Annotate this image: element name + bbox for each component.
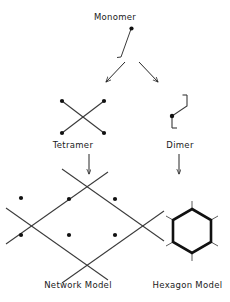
hexagon-model-glyph	[166, 201, 218, 261]
tetramer-arm-dot	[102, 99, 106, 103]
monomer-glyph	[117, 26, 134, 57]
model-arrows	[89, 154, 179, 174]
hexagon-model-label: Hexagon Model	[145, 281, 230, 290]
network-node-dot	[19, 233, 23, 237]
tetramer-glyph	[60, 99, 106, 135]
dimer-node-dot	[170, 114, 174, 118]
network-model-dots	[19, 196, 117, 237]
network-node-dot	[113, 197, 117, 201]
diagram-canvas	[0, 0, 230, 302]
network-node-dot	[19, 196, 23, 200]
network-node-dot	[67, 197, 71, 201]
tetramer-arm-dot	[60, 131, 64, 135]
hexagon-ring	[173, 209, 211, 253]
branch-arrows	[106, 62, 158, 82]
monomer-node-dot	[129, 26, 133, 30]
tetramer-label: Tetramer	[28, 141, 118, 150]
dimer-glyph	[170, 95, 187, 128]
assembly-scheme-figure: Monomer Tetramer Dimer Network Model Hex…	[0, 0, 230, 302]
arrow-monomer-to-dimer	[139, 62, 158, 82]
tetramer-arm-dot	[102, 131, 106, 135]
network-model-glyph	[6, 169, 164, 283]
arrow-monomer-to-tetramer	[106, 62, 125, 82]
monomer-label: Monomer	[0, 13, 230, 22]
dimer-label: Dimer	[145, 141, 215, 150]
network-node-dot	[67, 233, 71, 237]
network-node-dot	[113, 233, 117, 237]
tetramer-arm-dot	[60, 99, 64, 103]
network-model-label: Network Model	[8, 281, 148, 290]
